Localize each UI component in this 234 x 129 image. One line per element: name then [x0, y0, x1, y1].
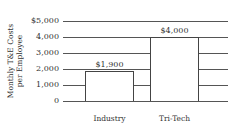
gridline-4000 — [63, 37, 228, 38]
y-axis-label-line-1: Monthly T&E Costs — [6, 24, 15, 98]
y-axis-label-line-2: per Employee — [15, 24, 24, 98]
gridline-3000 — [63, 53, 228, 54]
x-category-industry-average: Industry Average — [80, 106, 139, 129]
bar-tri-tech — [150, 37, 199, 101]
x-category-tri-tech: Tri-Tech — [145, 106, 204, 129]
y-axis-label-container: Monthly T&E Costs per Employee — [0, 18, 30, 104]
bar-industry-average — [85, 71, 134, 101]
y-tick-1000: 1,000 — [36, 81, 59, 89]
y-tick-0: 0 — [54, 97, 59, 105]
gridline-5000 — [63, 21, 228, 22]
x-category-line-1: Industry — [80, 115, 139, 124]
y-axis-label: Monthly T&E Costs per Employee — [6, 24, 24, 98]
bar-value-label-industry-average: $1,900 — [85, 61, 134, 69]
y-tick-3000: 3,000 — [36, 49, 59, 57]
x-category-line-1: Tri-Tech — [145, 115, 204, 124]
gridline-0 — [63, 101, 228, 102]
y-tick-5000: $5,000 — [31, 17, 59, 25]
y-tick-4000: 4,000 — [36, 33, 59, 41]
gridline-2000 — [63, 69, 228, 70]
bar-value-label-tri-tech: $4,000 — [150, 27, 199, 35]
y-tick-2000: 2,000 — [36, 65, 59, 73]
